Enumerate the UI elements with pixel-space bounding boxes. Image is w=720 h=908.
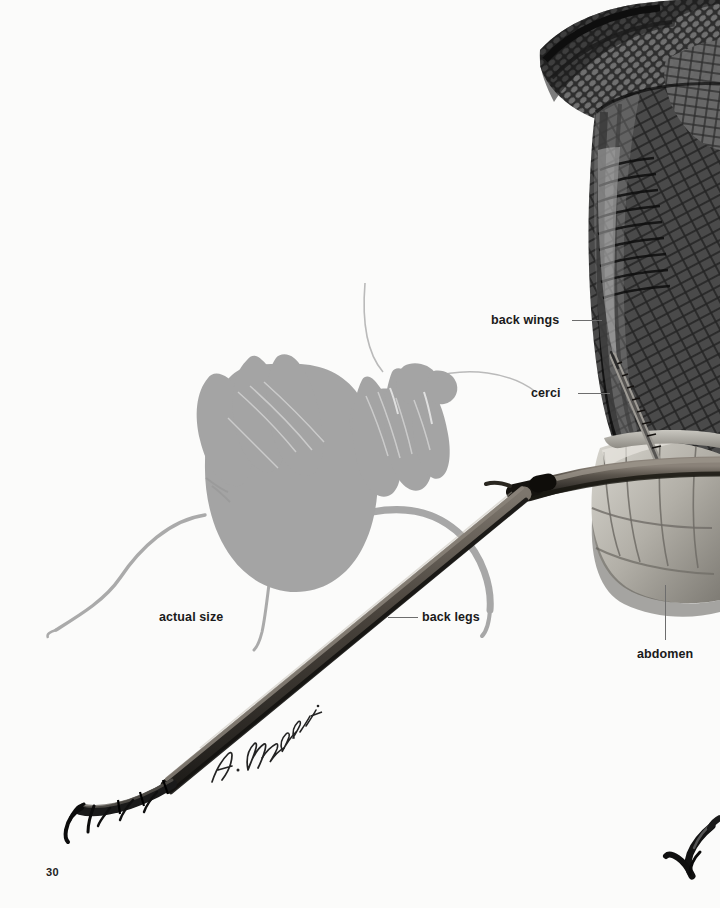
leader-line-back-wings (572, 320, 602, 321)
book-page: back wings cerci back legs abdomen actua… (0, 0, 720, 908)
leader-line-cerci (578, 393, 610, 394)
mantis-plate-artwork (0, 0, 720, 908)
callout-label-abdomen: abdomen (637, 648, 693, 661)
page-number: 30 (46, 866, 59, 878)
callout-label-cerci: cerci (531, 387, 561, 400)
leader-line-abdomen (665, 585, 666, 640)
callout-label-back-wings: back wings (491, 314, 559, 327)
callout-label-back-legs: back legs (422, 611, 480, 624)
leader-line-back-legs (388, 617, 418, 618)
callout-label-actual-size: actual size (159, 611, 223, 624)
actual-size-silhouette (47, 283, 536, 650)
tarsal-claw-fragment (666, 818, 720, 876)
